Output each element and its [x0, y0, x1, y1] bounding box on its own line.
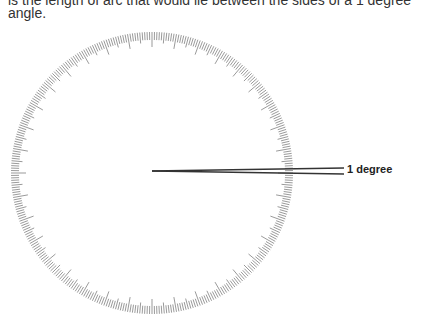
angle-line-lower [152, 171, 344, 174]
one-degree-label: 1 degree [347, 163, 392, 175]
angle-line-upper [152, 168, 344, 171]
